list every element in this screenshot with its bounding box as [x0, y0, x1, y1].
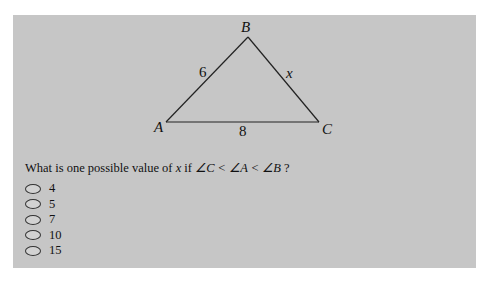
radio-button[interactable] [25, 215, 41, 225]
answer-options: 4 5 7 10 15 [25, 181, 62, 259]
radio-button[interactable] [25, 184, 41, 194]
option-label: 5 [49, 197, 55, 212]
side-bc [248, 37, 319, 122]
question-middle: if [181, 161, 195, 175]
question-panel: B A C 6 x 8 What is one possible value o… [13, 15, 476, 268]
option-label: 4 [49, 181, 55, 196]
option-15[interactable]: 15 [25, 243, 62, 259]
vertex-a-label: A [154, 119, 163, 136]
question-text: What is one possible value of x if ∠C < … [25, 160, 290, 176]
side-ab [166, 37, 248, 122]
option-7[interactable]: 7 [25, 212, 62, 228]
option-5[interactable]: 5 [25, 197, 62, 213]
question-condition: ∠C < ∠A < ∠B [195, 161, 281, 175]
option-4[interactable]: 4 [25, 181, 62, 197]
option-10[interactable]: 10 [25, 228, 62, 244]
radio-button[interactable] [25, 199, 41, 209]
vertex-b-label: B [241, 19, 250, 36]
side-ac-label: 8 [239, 123, 247, 140]
question-suffix: ? [281, 161, 290, 175]
option-label: 7 [49, 212, 55, 227]
option-label: 15 [49, 243, 62, 258]
option-label: 10 [49, 228, 62, 243]
radio-button[interactable] [25, 230, 41, 240]
vertex-c-label: C [322, 121, 332, 138]
side-bc-label: x [286, 65, 293, 82]
radio-button[interactable] [25, 246, 41, 256]
side-ab-label: 6 [199, 64, 207, 81]
question-prefix: What is one possible value of [25, 161, 176, 175]
